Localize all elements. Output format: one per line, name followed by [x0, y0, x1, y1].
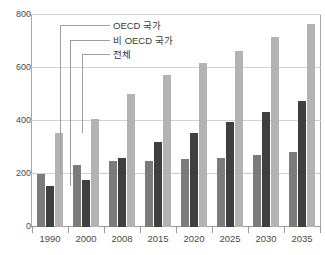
x-axis-tick-mark: [32, 227, 33, 233]
x-axis-tick-label: 2035: [284, 234, 320, 244]
legend-item-oecd: OECD 국가: [113, 21, 161, 31]
bar-chart: 800 600 400 200 0 1990200020082015202020…: [0, 0, 325, 255]
x-axis-tick-mark: [104, 227, 105, 233]
legend-item-non-oecd: 비 OECD 국가: [113, 36, 173, 46]
x-axis-tick-mark: [140, 227, 141, 233]
x-axis-tick-mark: [248, 227, 249, 233]
legend-leader-line-total-horizontal: [82, 54, 110, 55]
x-axis-tick-label: 2025: [212, 234, 248, 244]
legend-leader-line-total-vertical: [82, 54, 83, 133]
x-axis-tick-mark: [320, 227, 321, 233]
x-axis-tick-mark: [176, 227, 177, 233]
x-axis-tick-label: 1990: [32, 234, 68, 244]
x-axis-tick-label: 2030: [248, 234, 284, 244]
x-axis-tick-label: 2000: [68, 234, 104, 244]
x-axis-tick-label: 2020: [176, 234, 212, 244]
x-axis-tick-mark: [68, 227, 69, 233]
legend-leader-line-oecd-vertical: [60, 25, 61, 174]
x-axis-tick-label: 2015: [140, 234, 176, 244]
x-axis-tick-mark: [284, 227, 285, 233]
x-axis-tick-label: 2008: [104, 234, 140, 244]
x-axis-tick-mark: [212, 227, 213, 233]
legend-leader-line-nonoecd-vertical: [70, 40, 71, 186]
legend-leader-line-nonoecd-horizontal: [70, 40, 110, 41]
legend-leader-line-oecd-horizontal: [60, 25, 110, 26]
legend-item-total: 전체: [113, 50, 131, 60]
